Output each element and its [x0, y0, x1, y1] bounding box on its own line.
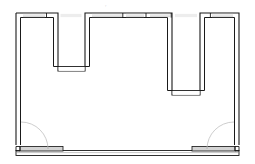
- window-opening: [23, 14, 45, 17]
- bottom-wall-group: [16, 147, 239, 156]
- window-opening: [126, 14, 144, 17]
- floor-plan-drawing: [0, 0, 255, 164]
- perimeter-walls-group: [16, 13, 239, 145]
- doors-group: [21, 122, 234, 149]
- window-opening: [61, 14, 82, 17]
- door-swing-arc-bottom-right: [207, 122, 234, 149]
- window-opening: [150, 14, 170, 17]
- wall-inner-line: [21, 18, 235, 146]
- window-opening: [175, 14, 197, 17]
- bottom-right-threshold: [192, 147, 235, 152]
- wall-outer-line: [16, 13, 239, 145]
- bottom-left-threshold: [20, 147, 63, 152]
- top-center-annotation: ◦: [105, 3, 107, 8]
- door-swing-arc-bottom-left: [21, 122, 48, 149]
- recess-right-floor: [173, 91, 200, 95]
- window-opening: [92, 14, 122, 17]
- floor-plan-canvas: ◦: [0, 0, 255, 164]
- top-windows-group: [23, 13, 233, 18]
- window-opening: [212, 14, 233, 17]
- recess-left-floor: [59, 67, 85, 71]
